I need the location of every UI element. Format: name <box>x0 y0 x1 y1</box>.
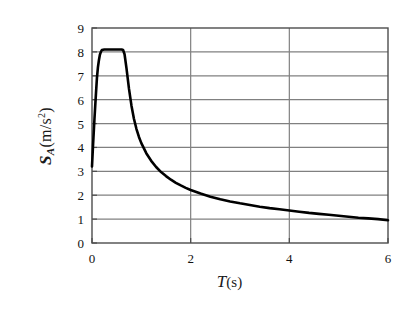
y-tick-label: 1 <box>66 213 84 226</box>
y-axis-label-symbol: S <box>36 155 55 165</box>
x-tick-label: 6 <box>376 252 400 265</box>
x-axis-label: T(s) <box>0 272 417 292</box>
y-tick-label: 2 <box>66 189 84 202</box>
y-axis-label-subscript: A <box>44 147 56 155</box>
y-axis-label-unit: (m/s <box>37 117 54 147</box>
plot-frame <box>92 28 388 243</box>
y-tick-label: 4 <box>66 141 84 154</box>
y-tick-label: 0 <box>66 237 84 250</box>
y-axis-label: SA(m/s2) <box>26 78 66 193</box>
tick-marks <box>92 28 388 243</box>
y-tick-label: 8 <box>66 46 84 59</box>
chart-figure: 0123456789 0246 SA(m/s2) T(s) <box>0 0 417 310</box>
y-axis-label-unit-close: ) <box>37 106 54 112</box>
gridlines <box>92 28 388 243</box>
x-axis-label-unit: (s) <box>226 274 242 290</box>
y-tick-label: 9 <box>66 22 84 35</box>
x-axis-label-symbol: T <box>217 272 226 291</box>
x-tick-label: 4 <box>277 252 301 265</box>
y-tick-label: 5 <box>66 118 84 131</box>
y-tick-label: 3 <box>66 165 84 178</box>
x-tick-label: 0 <box>80 252 104 265</box>
y-tick-label: 6 <box>66 94 84 107</box>
x-tick-label: 2 <box>179 252 203 265</box>
y-tick-label: 7 <box>66 70 84 83</box>
